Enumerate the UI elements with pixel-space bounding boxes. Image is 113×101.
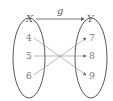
domain-element-5: 5 <box>26 51 32 61</box>
codomain-element-9: 9 <box>89 71 95 81</box>
codomain-element-8: 8 <box>89 51 95 61</box>
function-label: g <box>57 5 63 16</box>
domain-element-4: 4 <box>26 33 32 43</box>
mapping-diagram: X Y g 4 5 6 7 8 9 <box>0 0 113 101</box>
domain-label: X <box>25 13 34 24</box>
codomain-element-7: 7 <box>89 33 95 43</box>
domain-element-6: 6 <box>26 71 32 81</box>
